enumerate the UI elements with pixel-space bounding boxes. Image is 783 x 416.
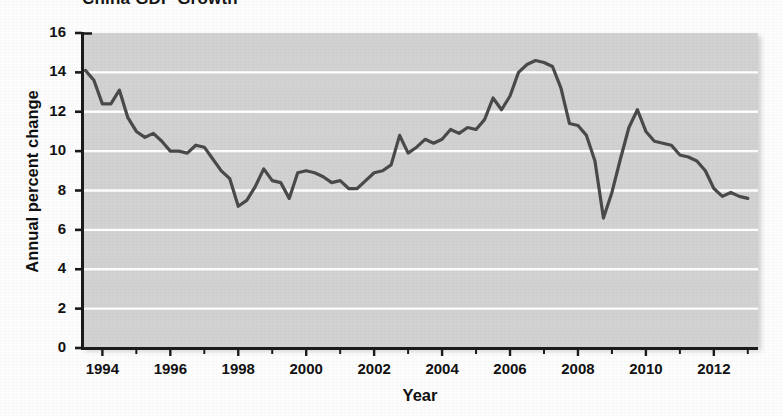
y-tick-label: 0 (26, 338, 66, 355)
y-tick-marks (75, 33, 82, 348)
y-tick-label: 6 (26, 220, 66, 237)
x-axis-title: Year (82, 386, 758, 405)
gdp-growth-line (85, 61, 747, 219)
data-line-svg (82, 33, 758, 348)
x-tick-label: 2004 (412, 360, 472, 377)
x-tick-label: 2012 (684, 360, 744, 377)
plot-area (82, 33, 758, 348)
x-tick-label: 2008 (548, 360, 608, 377)
x-tick-label: 1998 (208, 360, 268, 377)
y-tick-label: 14 (26, 62, 66, 79)
chart-figure: China GDP Growth Annual percent change 0… (0, 0, 783, 416)
x-tick-label: 2010 (616, 360, 676, 377)
y-tick-label: 8 (26, 181, 66, 198)
x-tick-marks (102, 348, 713, 356)
y-tick-label: 12 (26, 102, 66, 119)
x-tick-label: 1994 (72, 360, 132, 377)
x-minor-tick-marks (136, 348, 747, 354)
y-tick-label: 2 (26, 299, 66, 316)
x-tick-label: 2002 (344, 360, 404, 377)
x-tick-label: 2000 (276, 360, 336, 377)
x-tick-label: 2006 (480, 360, 540, 377)
x-tick-label: 1996 (140, 360, 200, 377)
chart-title: China GDP Growth (82, 0, 382, 11)
y-tick-label: 10 (26, 141, 66, 158)
gridlines (82, 72, 758, 308)
y-tick-label: 16 (26, 23, 66, 40)
y-tick-label: 4 (26, 259, 66, 276)
